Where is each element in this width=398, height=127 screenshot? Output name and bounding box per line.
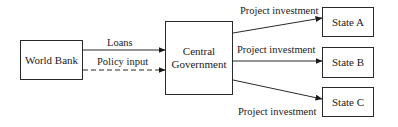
central-government-node: Central Government	[165, 21, 233, 95]
world-bank-node: World Bank	[20, 40, 83, 80]
investment-label-state-a: Project investment	[240, 5, 318, 17]
state-c-node: State C	[322, 87, 374, 117]
policy-input-label: Policy input	[97, 56, 148, 68]
investment-arrow-state-a	[233, 18, 322, 33]
investment-arrow-state-c	[233, 80, 322, 99]
state-a-label: State A	[332, 16, 364, 29]
investment-label-state-b: Project investment	[237, 44, 315, 56]
state-b-label: State B	[332, 56, 364, 69]
loans-label: Loans	[107, 37, 133, 49]
central-government-label-line2: Government	[172, 58, 227, 71]
world-bank-label: World Bank	[25, 54, 78, 67]
state-c-label: State C	[332, 96, 364, 109]
state-a-node: State A	[322, 7, 374, 37]
investment-label-state-c: Project investment	[238, 106, 316, 118]
central-government-label-line1: Central	[183, 45, 215, 58]
state-b-node: State B	[322, 47, 374, 78]
